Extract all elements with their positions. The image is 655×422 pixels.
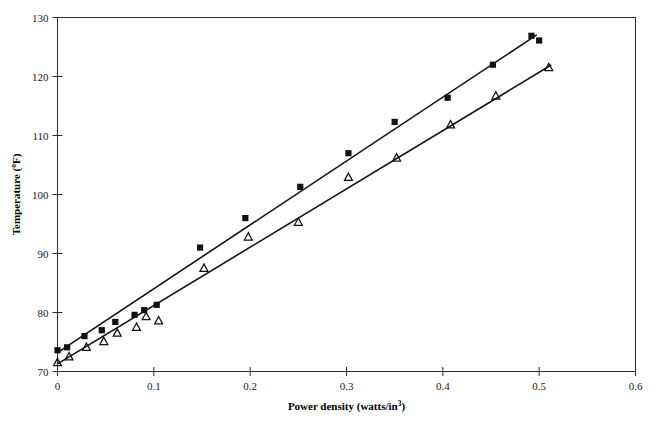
marker-square [392, 119, 398, 125]
marker-square [490, 62, 496, 68]
x-tick-label: 0.3 [340, 380, 354, 392]
marker-square [154, 302, 160, 308]
scatter-chart: 00.10.20.30.40.50.6 708090100110120130 P… [0, 0, 655, 422]
x-tick-label: 0.4 [436, 380, 450, 392]
x-axis-title: Power density (watts/in3) [288, 399, 406, 413]
marker-square [64, 344, 70, 350]
chart-background [0, 0, 655, 422]
y-tick-label: 120 [32, 71, 49, 83]
x-tick-label: 0.5 [532, 380, 546, 392]
y-tick-label: 80 [38, 307, 50, 319]
marker-square [197, 245, 203, 251]
y-tick-label: 70 [38, 366, 50, 378]
y-tick-label: 90 [38, 248, 50, 260]
marker-square [112, 319, 118, 325]
marker-square [242, 215, 248, 221]
marker-square [345, 150, 351, 156]
x-tick-label: 0.6 [629, 380, 643, 392]
marker-square [528, 33, 534, 39]
marker-square [131, 312, 137, 318]
y-tick-label: 100 [32, 189, 49, 201]
marker-square [297, 184, 303, 190]
marker-square [99, 327, 105, 333]
x-tick-label: 0.2 [243, 380, 257, 392]
marker-square [536, 37, 542, 43]
marker-square [81, 333, 87, 339]
marker-square [54, 347, 60, 353]
x-tick-label: 0 [55, 380, 61, 392]
y-tick-label: 110 [32, 130, 49, 142]
chart-container: 00.10.20.30.40.50.6 708090100110120130 P… [0, 0, 655, 422]
marker-square [445, 95, 451, 101]
y-tick-label: 130 [32, 12, 49, 24]
x-tick-label: 0.1 [147, 380, 161, 392]
